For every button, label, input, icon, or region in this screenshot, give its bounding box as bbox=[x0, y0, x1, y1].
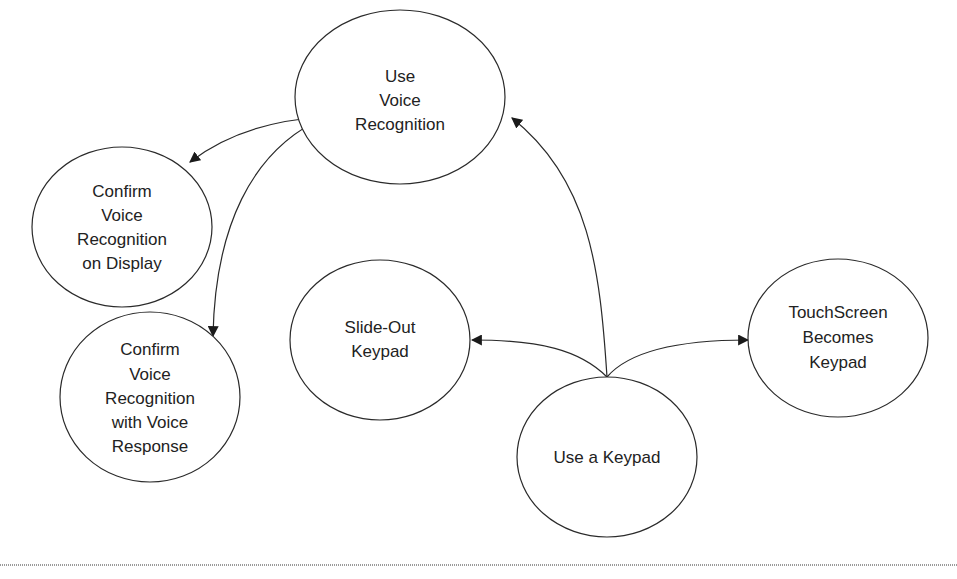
node-label-line: Becomes bbox=[803, 328, 874, 347]
node-label-line: Use bbox=[385, 67, 415, 86]
node-label-line: Use a Keypad bbox=[554, 448, 661, 467]
node-label-line: Confirm bbox=[120, 340, 180, 359]
node-label-line: TouchScreen bbox=[788, 303, 887, 322]
node-label-line: Response bbox=[112, 437, 189, 456]
node-use-voice-recognition: Use Voice Recognition bbox=[295, 10, 505, 184]
node-label-line: Slide-Out bbox=[345, 318, 416, 337]
edge-keypad-to-touchscreen bbox=[607, 340, 748, 377]
node-label-line: Voice bbox=[379, 91, 421, 110]
node-label-line: Keypad bbox=[809, 353, 867, 372]
diagram-canvas: Use Voice Recognition Confirm Voice Reco… bbox=[0, 0, 957, 579]
node-label-line: Recognition bbox=[77, 230, 167, 249]
node-use-a-keypad: Use a Keypad bbox=[517, 377, 697, 537]
node-slide-out-keypad: Slide-Out Keypad bbox=[290, 260, 470, 420]
node-touchscreen-becomes-keypad: TouchScreen Becomes Keypad bbox=[748, 259, 928, 417]
node-label-line: Voice bbox=[101, 206, 143, 225]
node-label-line: on Display bbox=[82, 254, 162, 273]
node-label-line: Confirm bbox=[92, 182, 152, 201]
node-label-line: Recognition bbox=[105, 389, 195, 408]
node-label-line: with Voice bbox=[111, 413, 189, 432]
node-confirm-on-display: Confirm Voice Recognition on Display bbox=[32, 147, 212, 307]
node-label-line: Voice bbox=[129, 365, 171, 384]
edge-keypad-to-slideout bbox=[472, 340, 607, 377]
node-label-line: Recognition bbox=[355, 115, 445, 134]
node-confirm-with-voice-response: Confirm Voice Recognition with Voice Res… bbox=[60, 312, 240, 482]
edge-keypad-to-voice bbox=[512, 118, 607, 377]
node-label-line: Keypad bbox=[351, 342, 409, 361]
